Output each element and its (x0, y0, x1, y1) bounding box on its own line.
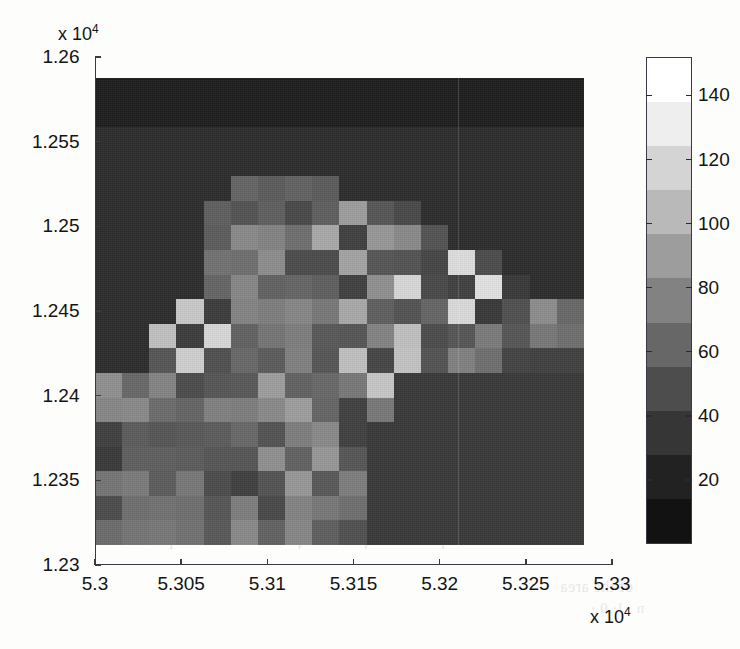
heatmap-cell (394, 250, 421, 275)
heatmap-cell (122, 373, 149, 398)
colorbar-gradient (646, 57, 692, 544)
colorbar-tick-mark (686, 415, 692, 416)
heatmap-cell (231, 201, 258, 226)
heatmap-cell (176, 348, 203, 373)
y-tick-mark (95, 310, 101, 311)
heatmap-cell (557, 127, 584, 152)
heatmap-cell (502, 78, 529, 103)
heatmap-cell (530, 201, 557, 226)
heatmap-cell (394, 348, 421, 373)
heatmap-cell (149, 225, 176, 250)
heatmap-cell (204, 496, 231, 521)
y-tick-label: 1.255 (32, 131, 80, 153)
heatmap-cell (339, 348, 366, 373)
heatmap-cell (312, 201, 339, 226)
heatmap-cell (421, 398, 448, 423)
heatmap-cell (258, 127, 285, 152)
y-tick-label: 1.235 (32, 469, 80, 491)
heatmap-cell (176, 275, 203, 300)
heatmap-cell (149, 398, 176, 423)
heatmap-cell (95, 398, 122, 423)
heatmap-cell (530, 152, 557, 177)
heatmap-cell (530, 422, 557, 447)
y-tick-mark (95, 56, 101, 57)
heatmap-cell (367, 398, 394, 423)
heatmap-cell (176, 152, 203, 177)
x-tick-mark (611, 559, 612, 565)
heatmap-cell (530, 471, 557, 496)
heatmap-cell (421, 275, 448, 300)
colorbar-tick-label: 80 (698, 277, 719, 299)
heatmap-cell (285, 496, 312, 521)
heatmap-cell (339, 373, 366, 398)
heatmap-cell (421, 496, 448, 521)
heatmap-cell (394, 152, 421, 177)
heatmap-cell (312, 447, 339, 472)
heatmap-cell (475, 398, 502, 423)
heatmap-cell (204, 152, 231, 177)
heatmap-cell (339, 398, 366, 423)
heatmap-cell (367, 127, 394, 152)
heatmap-cell (475, 422, 502, 447)
x-tick-mark (525, 559, 526, 565)
heatmap-cell (448, 78, 475, 103)
heatmap-cell (502, 299, 529, 324)
heatmap-cell (421, 324, 448, 349)
heatmap-cell (176, 78, 203, 103)
heatmap-cell (367, 78, 394, 103)
heatmap-cell (312, 520, 339, 545)
heatmap-cell (367, 225, 394, 250)
colorbar-tick-mark (686, 287, 692, 288)
heatmap-cell (312, 152, 339, 177)
heatmap-cell (122, 520, 149, 545)
heatmap-cell (231, 348, 258, 373)
heatmap-cell (176, 398, 203, 423)
heatmap-cell (530, 299, 557, 324)
y-tick-label: 1.23 (43, 554, 80, 576)
heatmap-cell (448, 103, 475, 128)
heatmap-cell (448, 496, 475, 521)
heatmap-cell (367, 348, 394, 373)
heatmap-cell (285, 152, 312, 177)
heatmap-cell (502, 176, 529, 201)
heatmap-cell (204, 299, 231, 324)
heatmap-cell (367, 520, 394, 545)
heatmap-cell (557, 225, 584, 250)
colorbar-tick-label: 60 (698, 341, 719, 363)
heatmap-cell (122, 78, 149, 103)
heatmap-cell (149, 152, 176, 177)
heatmap-cell (530, 496, 557, 521)
heatmap-cell (448, 348, 475, 373)
heatmap-cell (231, 225, 258, 250)
heatmap-cell (394, 127, 421, 152)
heatmap-cell (394, 225, 421, 250)
heatmap-cell (475, 127, 502, 152)
x-tick-label: 5.315 (330, 573, 378, 595)
heatmap-cell (176, 324, 203, 349)
heatmap-cell (231, 422, 258, 447)
heatmap-cell (258, 348, 285, 373)
heatmap-cell (149, 103, 176, 128)
heatmap-cell (312, 250, 339, 275)
heatmap-cell (258, 152, 285, 177)
heatmap-cell (475, 348, 502, 373)
heatmap-cell (448, 520, 475, 545)
heatmap-cell (421, 78, 448, 103)
heatmap-cell (530, 275, 557, 300)
heatmap-cell (149, 299, 176, 324)
heatmap-cell (149, 447, 176, 472)
heatmap-cell (530, 373, 557, 398)
heatmap-cell (367, 496, 394, 521)
heatmap-cell (475, 176, 502, 201)
colorbar-band (647, 323, 691, 367)
colorbar-band (647, 455, 691, 499)
heatmap-cell (285, 103, 312, 128)
heatmap-cell (448, 201, 475, 226)
heatmap-cell (95, 250, 122, 275)
colorbar-band (647, 146, 691, 190)
heatmap-cell (475, 447, 502, 472)
colorbar-tick-mark (686, 159, 692, 160)
heatmap-cell (204, 471, 231, 496)
y-tick-mark (95, 395, 101, 396)
heatmap-cell (394, 324, 421, 349)
